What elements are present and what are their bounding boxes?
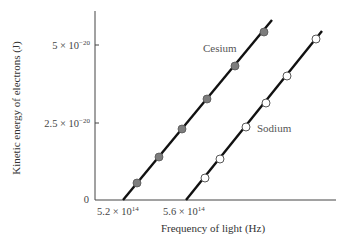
cesium-point	[155, 153, 163, 161]
cesium-point	[133, 179, 141, 187]
y-tick-label-0: 0	[84, 194, 89, 205]
series-cesium: Cesium	[123, 20, 272, 200]
sodium-point	[262, 99, 270, 107]
y-axis-label: Kinetic energy of electrons (J)	[10, 41, 23, 175]
sodium-label: Sodium	[257, 122, 292, 134]
cesium-point	[231, 62, 239, 70]
x-tick-label-5-6: 5.6 × 1014	[163, 205, 205, 217]
cesium-point	[203, 95, 211, 103]
y-tick-label-2-5: 2.5 × 10−20	[44, 117, 90, 129]
cesium-point	[178, 125, 186, 133]
cesium-label: Cesium	[203, 42, 237, 54]
cesium-point	[260, 28, 268, 36]
x-axis-label: Frequency of light (Hz)	[161, 222, 265, 235]
sodium-point	[312, 35, 320, 43]
sodium-point	[242, 123, 250, 131]
photoelectric-chart: 5 × 10−20 2.5 × 10−20 0 5.2 × 1014 5.6 ×…	[0, 0, 339, 242]
sodium-point	[201, 174, 209, 182]
series-sodium: Sodium	[186, 31, 322, 200]
cesium-line	[123, 20, 272, 200]
y-tick-label-5: 5 × 10−20	[52, 39, 90, 51]
sodium-point	[216, 155, 224, 163]
sodium-point	[283, 72, 291, 80]
x-tick-label-5-2: 5.2 × 1014	[97, 205, 139, 217]
